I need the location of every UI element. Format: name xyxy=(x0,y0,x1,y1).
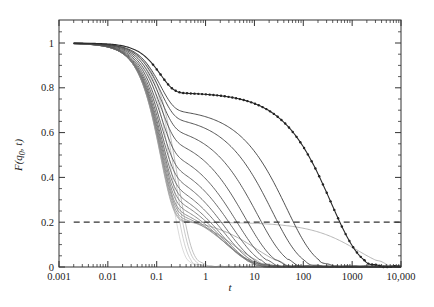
series-curve-12 xyxy=(74,44,401,267)
data-marker xyxy=(363,259,365,261)
data-marker xyxy=(159,73,161,75)
y-tick-label: 0 xyxy=(49,262,54,273)
series-curve-10 xyxy=(74,44,401,267)
y-tick-label: 0.8 xyxy=(41,82,54,93)
series-curve-3 xyxy=(74,43,401,267)
data-marker xyxy=(356,251,358,253)
data-marker xyxy=(337,217,339,219)
data-marker xyxy=(250,101,252,103)
series-curve-5 xyxy=(74,43,401,266)
chart: 0.0010.010.1110100100010,000 00.20.40.60… xyxy=(0,0,434,307)
data-marker xyxy=(163,79,165,81)
data-marker xyxy=(341,225,343,227)
plot-frame xyxy=(59,20,401,267)
x-tick-label: 0.1 xyxy=(150,271,163,282)
data-marker xyxy=(280,119,282,121)
data-marker xyxy=(333,209,335,211)
data-marker xyxy=(288,126,290,128)
x-tick-label: 0.01 xyxy=(99,271,117,282)
series-curve-6 xyxy=(74,43,401,267)
x-tick-label: 0.001 xyxy=(47,271,71,282)
data-marker xyxy=(367,262,369,264)
data-curves xyxy=(74,43,401,268)
axes-frame xyxy=(59,20,401,267)
data-marker xyxy=(303,147,305,149)
series-curve-4 xyxy=(74,43,401,267)
data-marker xyxy=(360,256,362,258)
series-curve-17 xyxy=(74,43,401,267)
data-marker xyxy=(310,160,312,162)
series-curve-8 xyxy=(74,44,401,267)
data-marker xyxy=(201,93,203,95)
data-marker xyxy=(167,83,169,85)
data-marker xyxy=(197,93,199,95)
series-curve-11 xyxy=(74,44,401,267)
data-marker xyxy=(235,97,237,99)
data-marker xyxy=(220,95,222,97)
x-tick-label: 10,000 xyxy=(387,271,416,282)
data-marker xyxy=(231,96,233,98)
data-marker xyxy=(284,122,286,124)
data-marker xyxy=(227,96,229,98)
series-curve-9 xyxy=(74,44,401,267)
data-marker xyxy=(276,116,278,118)
data-marker xyxy=(261,106,263,108)
series-curve-21 xyxy=(74,43,401,267)
y-axis-label: F(q0, t) xyxy=(12,139,27,172)
x-axis-label: t xyxy=(228,281,232,293)
series-curve-13 xyxy=(74,44,401,267)
data-marker xyxy=(318,175,320,177)
data-marker xyxy=(156,68,158,70)
data-marker xyxy=(314,167,316,169)
y-tick-label: 0.4 xyxy=(41,172,55,183)
data-marker xyxy=(326,192,328,194)
data-marker xyxy=(344,233,346,235)
data-marker xyxy=(322,183,324,185)
data-marker xyxy=(152,63,154,65)
data-marker xyxy=(208,93,210,95)
data-marker xyxy=(295,136,297,138)
series-curve-16 xyxy=(74,44,401,267)
data-marker xyxy=(269,110,271,112)
series-curve-14 xyxy=(74,44,401,267)
series-curve-20 xyxy=(74,43,401,267)
data-marker xyxy=(242,99,244,101)
x-tick-label: 10 xyxy=(249,271,260,282)
y-tick-label: 1 xyxy=(49,38,54,49)
data-marker xyxy=(292,131,294,133)
data-marker xyxy=(193,92,195,94)
data-marker xyxy=(205,93,207,95)
data-marker xyxy=(224,95,226,97)
series-curve-19 xyxy=(74,43,401,267)
data-marker xyxy=(212,94,214,96)
data-marker xyxy=(246,100,248,102)
data-marker xyxy=(239,98,241,100)
series-curve-2 xyxy=(74,43,401,267)
data-marker xyxy=(178,91,180,93)
series-curve-7 xyxy=(74,43,401,267)
data-marker xyxy=(307,153,309,155)
series-curve-1 xyxy=(74,43,401,267)
x-tick-label: 100 xyxy=(295,271,311,282)
x-tick-label: 1000 xyxy=(342,271,363,282)
y-tick-label: 0.6 xyxy=(41,127,54,138)
data-marker xyxy=(265,108,267,110)
data-marker xyxy=(254,103,256,105)
y-tick-label: 0.2 xyxy=(41,217,54,228)
data-marker xyxy=(371,263,373,265)
data-marker xyxy=(352,246,354,248)
data-marker xyxy=(216,94,218,96)
data-marker xyxy=(190,92,192,94)
x-tick-label: 1 xyxy=(203,271,208,282)
data-marker xyxy=(258,104,260,106)
data-marker xyxy=(171,87,173,89)
data-marker xyxy=(348,240,350,242)
x-axis-ticks: 0.0010.010.1110100100010,000 xyxy=(47,20,415,282)
series-curve-18 xyxy=(74,43,401,267)
data-marker xyxy=(186,92,188,94)
series-curve-15 xyxy=(74,44,401,267)
data-marker xyxy=(273,113,275,115)
data-marker xyxy=(182,92,184,94)
data-marker xyxy=(174,90,176,92)
data-marker xyxy=(329,200,331,202)
